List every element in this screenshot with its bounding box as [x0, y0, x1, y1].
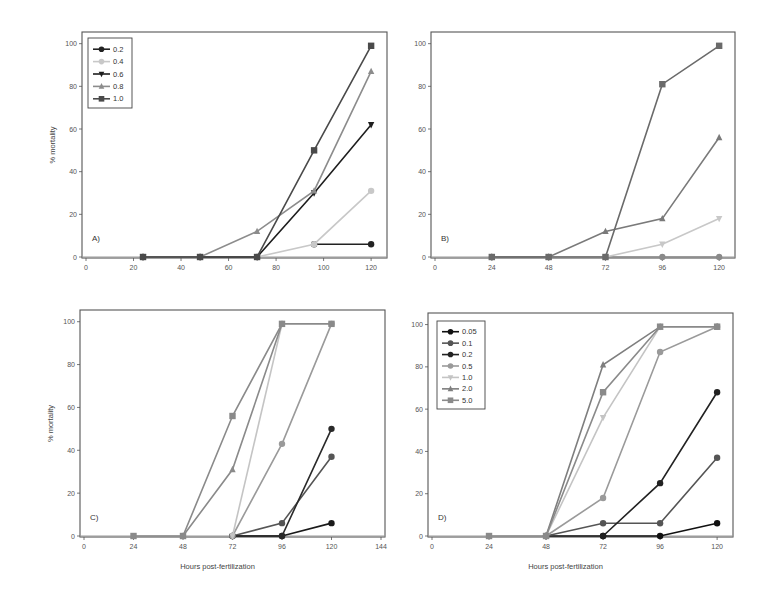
- x-axis-label: Hours post-fertilization: [180, 562, 255, 571]
- data-point: [657, 520, 663, 526]
- panel-d-chart: 020406080100024487296120Hours post-ferti…: [411, 313, 733, 571]
- data-point: [328, 454, 334, 460]
- legend-label: 2.0: [462, 384, 472, 393]
- data-series: [486, 323, 720, 539]
- data-point: [279, 533, 285, 539]
- data-series: [130, 321, 334, 540]
- data-point: [368, 68, 374, 74]
- data-point: [328, 520, 334, 526]
- data-point: [254, 228, 260, 234]
- y-tick-label: 20: [415, 490, 423, 497]
- data-point: [714, 455, 720, 461]
- legend-label: 0.05: [462, 327, 477, 336]
- panel-label: A): [92, 234, 100, 243]
- y-tick-label: 80: [67, 361, 75, 368]
- x-tick-label: 96: [278, 543, 286, 550]
- y-axis-label: % mortality: [48, 126, 57, 163]
- series-line: [233, 324, 332, 536]
- data-point: [716, 43, 722, 49]
- y-tick-label: 20: [67, 490, 75, 497]
- legend-label: 0.6: [113, 70, 123, 79]
- x-tick-label: 120: [713, 264, 725, 271]
- legend-marker: [448, 340, 454, 346]
- data-point: [716, 134, 722, 140]
- series-line: [143, 191, 371, 257]
- data-point: [602, 254, 608, 260]
- y-tick-label: 100: [65, 40, 77, 47]
- x-tick-label: 120: [711, 543, 723, 550]
- series-line: [492, 46, 719, 257]
- y-tick-label: 0: [73, 254, 77, 261]
- legend-marker: [448, 397, 454, 403]
- data-point: [279, 520, 285, 526]
- panel-c-chart: 020406080100024487296120144% mortalityHo…: [46, 310, 387, 571]
- legend-marker: [448, 329, 454, 335]
- legend-marker: [448, 352, 454, 358]
- x-tick-label: 24: [130, 543, 138, 550]
- y-tick-label: 60: [67, 404, 75, 411]
- data-point: [714, 323, 720, 329]
- y-tick-label: 40: [418, 168, 426, 175]
- x-axis-label: Hours post-fertilization: [528, 562, 603, 571]
- panel-label: C): [90, 513, 99, 522]
- y-tick-label: 60: [69, 126, 77, 133]
- data-point: [489, 254, 495, 260]
- y-tick-label: 0: [422, 254, 426, 261]
- legend-label: 0.8: [113, 82, 123, 91]
- data-point: [543, 533, 549, 539]
- x-tick-label: 96: [658, 264, 666, 271]
- legend: 0.20.40.60.81.0: [88, 38, 132, 108]
- legend-marker: [99, 59, 105, 65]
- series-line: [546, 327, 717, 536]
- series-line: [233, 324, 283, 536]
- y-tick-label: 20: [69, 211, 77, 218]
- panel-b-chart: 020406080100024487296120B): [414, 32, 735, 271]
- y-tick-label: 40: [69, 168, 77, 175]
- series-line: [143, 46, 371, 257]
- series-line: [546, 327, 717, 536]
- x-tick-label: 0: [84, 264, 88, 271]
- series-line: [492, 219, 719, 257]
- y-tick-label: 40: [415, 448, 423, 455]
- series-line: [183, 324, 282, 536]
- legend-marker: [99, 96, 105, 102]
- y-tick-label: 0: [71, 533, 75, 540]
- data-series: [140, 188, 374, 261]
- data-point: [657, 349, 663, 355]
- data-series: [489, 43, 723, 261]
- y-tick-label: 20: [418, 211, 426, 218]
- data-point: [279, 321, 285, 327]
- data-series: [229, 321, 334, 540]
- data-point: [657, 533, 663, 539]
- x-tick-label: 40: [177, 264, 185, 271]
- legend-label: 0.1: [462, 339, 472, 348]
- data-point: [229, 413, 235, 419]
- data-series: [543, 323, 720, 539]
- data-series: [140, 43, 374, 261]
- data-point: [659, 81, 665, 87]
- data-point: [130, 533, 136, 539]
- legend-label: 0.5: [462, 362, 472, 371]
- legend-label: 0.2: [462, 350, 472, 359]
- legend-marker: [448, 363, 454, 369]
- data-point: [279, 441, 285, 447]
- data-point: [600, 520, 606, 526]
- x-tick-label: 24: [485, 543, 493, 550]
- data-point: [311, 147, 317, 153]
- data-series: [140, 122, 374, 261]
- legend-label: 0.4: [113, 57, 123, 66]
- y-tick-label: 60: [418, 126, 426, 133]
- data-point: [714, 520, 720, 526]
- x-tick-label: 0: [433, 264, 437, 271]
- data-point: [140, 254, 146, 260]
- x-tick-label: 72: [599, 543, 607, 550]
- data-point: [600, 361, 606, 367]
- x-tick-label: 80: [272, 264, 280, 271]
- y-tick-label: 0: [419, 533, 423, 540]
- x-tick-label: 48: [179, 543, 187, 550]
- data-point: [657, 480, 663, 486]
- data-point: [328, 321, 334, 327]
- x-tick-label: 120: [326, 543, 338, 550]
- data-point: [600, 495, 606, 501]
- x-tick-label: 144: [375, 543, 387, 550]
